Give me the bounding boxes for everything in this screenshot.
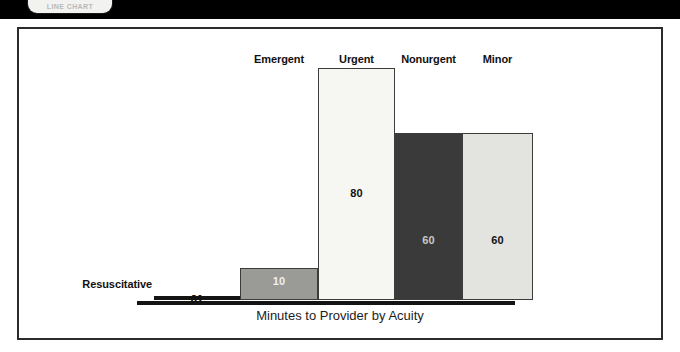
bar-slot-emergent: Emergent10: [240, 68, 318, 300]
bar-label-urgent: Urgent: [339, 53, 374, 65]
plot-area: Resuscitative01Emergent10Urgent80Nonurge…: [19, 29, 661, 338]
bar-label-emergent: Emergent: [254, 53, 304, 65]
chart-type-button-label: LINE CHART: [28, 3, 112, 10]
bar-label-resuscitative: Resuscitative: [82, 278, 154, 290]
bar-rect-nonurgent[interactable]: 60: [395, 133, 462, 300]
bar-label-minor: Minor: [483, 53, 512, 65]
x-axis-title: Minutes to Provider by Acuity: [19, 308, 661, 323]
screenshot-root: LINE CHART Resuscitative01Emergent10Urge…: [0, 0, 680, 352]
bar-value-nonurgent: 60: [396, 234, 461, 246]
bar-rect-emergent[interactable]: 10: [240, 268, 318, 300]
bar-slot-urgent: Urgent80: [318, 68, 395, 300]
figure-panel: Resuscitative01Emergent10Urgent80Nonurge…: [17, 27, 663, 340]
bar-slot-nonurgent: Nonurgent60: [395, 68, 462, 300]
chart-type-button[interactable]: LINE CHART: [28, 0, 112, 13]
bar-label-nonurgent: Nonurgent: [401, 53, 456, 65]
bar-rect-minor[interactable]: 60: [462, 133, 533, 300]
bar-series: Resuscitative01Emergent10Urgent80Nonurge…: [154, 68, 533, 300]
bar-value-resuscitative: 01: [154, 293, 240, 305]
bar-value-minor: 60: [463, 234, 532, 246]
top-header-bar: LINE CHART: [0, 0, 680, 19]
bar-slot-minor: Minor60: [462, 68, 533, 300]
bar-value-urgent: 80: [319, 187, 394, 199]
bar-value-emergent: 10: [241, 275, 317, 287]
bar-rect-resuscitative[interactable]: 01: [154, 296, 240, 300]
bar-slot-resuscitative: Resuscitative01: [154, 68, 240, 300]
bar-rect-urgent[interactable]: 80: [318, 68, 395, 300]
